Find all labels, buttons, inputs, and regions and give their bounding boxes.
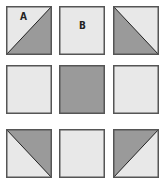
block-graphic: [59, 65, 105, 114]
label-b: B: [79, 21, 86, 31]
block-half-square: [113, 129, 159, 178]
block-half-square: [113, 6, 159, 55]
solid-fill: [59, 129, 105, 178]
block-graphic: [113, 65, 159, 114]
solid-fill: [59, 65, 105, 114]
solid-fill: [6, 65, 52, 114]
label-a: A: [20, 12, 27, 22]
block-solid-dark: [59, 65, 105, 114]
block-solid-light: [6, 65, 52, 114]
block-solid-light: [59, 129, 105, 178]
block-graphic: [6, 6, 52, 55]
block-graphic: [6, 65, 52, 114]
block-graphic: [6, 129, 52, 178]
solid-fill: [113, 65, 159, 114]
block-graphic: [113, 6, 159, 55]
block-graphic: [113, 129, 159, 178]
block-half-square: [6, 129, 52, 178]
block-graphic: [59, 129, 105, 178]
block-half-square-a: [6, 6, 52, 55]
block-solid-light: [113, 65, 159, 114]
